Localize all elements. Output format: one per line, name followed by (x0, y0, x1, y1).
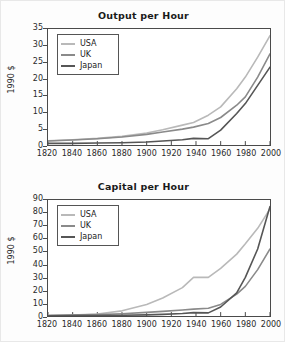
legend-line-icon-uk (61, 54, 75, 56)
legend-item-usa: USA (61, 209, 114, 220)
y-tick-label: 25 (17, 58, 43, 66)
legend-label: Japan (80, 232, 102, 242)
legend-line-icon-usa (61, 43, 75, 45)
legend-label: Japan (80, 61, 102, 71)
x-tick-label: 2000 (256, 149, 285, 158)
y-axis-label-bottom: 1990 $ (7, 222, 16, 280)
y-tick-label: 10 (17, 108, 43, 116)
y-tick-label: 5 (17, 125, 43, 133)
chart-title-bottom: Capital per Hour (1, 181, 285, 192)
chart-title-top: Output per Hour (1, 10, 285, 21)
y-tick-label: 20 (17, 287, 43, 295)
legend-line-icon-japan (61, 65, 75, 67)
y-tick-label: 30 (17, 41, 43, 49)
y-tick-label: 70 (17, 221, 43, 229)
legend-item-usa: USA (61, 38, 114, 49)
legend-line-icon-japan (61, 236, 75, 238)
y-tick-label: 15 (17, 91, 43, 99)
legend-bottom: USA UK Japan (57, 205, 119, 246)
y-tick-label: 40 (17, 261, 43, 269)
legend-label: UK (80, 50, 91, 60)
chart-panel-capital-per-hour: Capital per Hour 1990 $ 90 80 70 60 50 4… (1, 172, 285, 342)
chart-panel-output-per-hour: Output per Hour 1990 $ 35 30 25 20 15 10… (1, 1, 285, 172)
x-tick-label: 2000 (256, 320, 285, 329)
legend-item-uk: UK (61, 220, 114, 231)
y-tick-label: 35 (17, 24, 43, 32)
y-tick-label: 90 (17, 195, 43, 203)
series-line-uk (48, 249, 270, 316)
legend-top: USA UK Japan (57, 34, 119, 75)
legend-label: USA (80, 39, 97, 49)
y-tick-label: 10 (17, 300, 43, 308)
legend-label: USA (80, 210, 97, 220)
y-tick-label: 20 (17, 75, 43, 83)
y-tick-label: 50 (17, 247, 43, 255)
y-tick-label: 80 (17, 208, 43, 216)
y-tick-label: 60 (17, 234, 43, 242)
legend-line-icon-usa (61, 214, 75, 216)
y-axis-label-top: 1990 $ (7, 51, 16, 109)
legend-item-japan: Japan (61, 60, 114, 71)
figure-root: Output per Hour 1990 $ 35 30 25 20 15 10… (0, 0, 285, 342)
y-tick-label: 30 (17, 274, 43, 282)
legend-line-icon-uk (61, 225, 75, 227)
legend-label: UK (80, 221, 91, 231)
legend-item-japan: Japan (61, 231, 114, 242)
legend-item-uk: UK (61, 49, 114, 60)
